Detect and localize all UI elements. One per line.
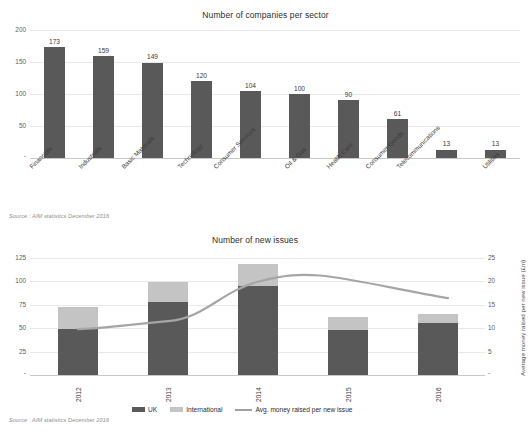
bar-value-basic-materials: 149 bbox=[132, 53, 173, 60]
top-ytick-50: 50 bbox=[2, 122, 26, 129]
xlabel-2012: 2012 bbox=[75, 387, 82, 402]
report-page: Number of companies per sector 200 150 1… bbox=[0, 0, 531, 438]
legend-swatch-line-icon bbox=[235, 409, 252, 411]
top-ytick-0: - bbox=[2, 152, 26, 159]
new-issues-panel: Number of new issues 125 100 75 50 25 - … bbox=[0, 230, 531, 438]
xlabel-2014: 2014 bbox=[255, 387, 262, 402]
top-ytick-200: 200 bbox=[2, 26, 26, 33]
bar-value-telecommunications: 13 bbox=[426, 140, 467, 147]
legend-swatch-international-icon bbox=[170, 407, 183, 412]
bar-value-oil-and-gas: 100 bbox=[279, 85, 320, 92]
bar-value-consumer-services: 104 bbox=[230, 82, 271, 89]
bar-value-technology: 120 bbox=[181, 72, 222, 79]
bar-value-financials: 173 bbox=[34, 38, 75, 45]
legend-item-international: International bbox=[170, 406, 222, 413]
top-ytick-150: 150 bbox=[2, 58, 26, 65]
bar-value-health-care: 90 bbox=[328, 91, 369, 98]
legend-label-avg-money-raised: Avg. money raised per new issue bbox=[255, 406, 352, 413]
legend-label-international: International bbox=[186, 406, 222, 413]
xlabel-2015: 2015 bbox=[345, 387, 352, 402]
legend-item-avg-money-raised: Avg. money raised per new issue bbox=[235, 406, 352, 413]
legend-item-uk: UK bbox=[132, 406, 157, 413]
bar-telecommunications bbox=[436, 150, 457, 158]
legend-label-uk: UK bbox=[148, 406, 157, 413]
bar-value-utilities: 13 bbox=[475, 140, 516, 147]
gridline-200 bbox=[30, 30, 520, 31]
top-chart-title: Number of companies per sector bbox=[0, 10, 531, 20]
bottom-chart-legend: UK International Avg. money raised per n… bbox=[132, 406, 352, 413]
top-chart-source: Source : AIM statistics December 2016 bbox=[9, 213, 109, 219]
bottom-chart-source: Source : AIM statistics December 2016 bbox=[9, 417, 109, 423]
x-axis-line bbox=[30, 158, 520, 159]
top-ytick-100: 100 bbox=[2, 90, 26, 97]
bar-industrials bbox=[93, 56, 114, 158]
bar-financials bbox=[44, 47, 65, 158]
companies-per-sector-panel: Number of companies per sector 200 150 1… bbox=[0, 0, 531, 228]
xlabel-2016: 2016 bbox=[435, 387, 442, 402]
bar-value-industrials: 159 bbox=[83, 47, 124, 54]
xlabel-2013: 2013 bbox=[165, 387, 172, 402]
bar-value-consumer-goods: 61 bbox=[377, 110, 418, 117]
legend-swatch-uk-icon bbox=[132, 407, 145, 412]
